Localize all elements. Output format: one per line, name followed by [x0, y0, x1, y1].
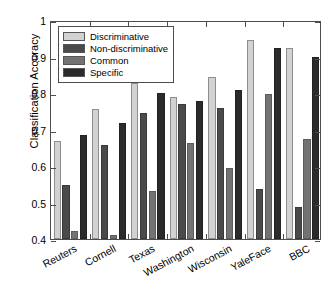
y-tick-mark-right	[315, 22, 320, 23]
bar	[149, 191, 156, 239]
legend-item: Non-discriminative	[63, 43, 168, 54]
bar	[54, 141, 61, 239]
legend-item: Common	[63, 55, 168, 66]
legend-label: Discriminative	[90, 32, 149, 42]
bar	[196, 101, 203, 239]
bar	[71, 231, 78, 239]
y-tick-mark-right	[315, 168, 320, 169]
bar	[62, 185, 69, 239]
bar	[312, 57, 319, 240]
bar	[208, 77, 215, 239]
bar	[170, 97, 177, 239]
bar	[157, 93, 164, 239]
bar-group	[247, 22, 281, 239]
legend-item: Discriminative	[63, 31, 168, 42]
bar	[110, 235, 117, 239]
y-tick-mark	[51, 132, 56, 133]
bar	[265, 94, 272, 239]
legend: DiscriminativeNon-discriminativeCommonSp…	[58, 26, 174, 83]
bar	[274, 48, 281, 239]
x-tick-mark-top	[245, 22, 246, 27]
y-tick-mark-right	[315, 132, 320, 133]
y-tick-mark-right	[315, 205, 320, 206]
legend-swatch	[63, 44, 85, 53]
y-tick-label: 0.9	[8, 52, 46, 64]
y-tick-mark	[51, 168, 56, 169]
bar	[140, 113, 147, 239]
y-tick-label: 1	[8, 15, 46, 27]
bar	[286, 48, 293, 239]
legend-swatch	[63, 68, 85, 77]
y-tick-mark-right	[315, 59, 320, 60]
y-tick-label: 0.5	[8, 198, 46, 210]
legend-swatch	[63, 32, 85, 41]
bar	[303, 139, 310, 239]
bar	[217, 108, 224, 239]
x-tick-mark	[206, 234, 207, 239]
bar	[295, 207, 302, 239]
bar	[92, 109, 99, 239]
bar	[187, 143, 194, 239]
bar	[247, 40, 254, 239]
y-tick-mark	[51, 59, 56, 60]
bar	[131, 83, 138, 239]
y-tick-mark	[51, 95, 56, 96]
y-tick-label: 0.7	[8, 125, 46, 137]
x-tick-mark-top	[206, 22, 207, 27]
y-tick-mark	[51, 205, 56, 206]
bar	[80, 135, 87, 239]
y-tick-mark	[51, 22, 56, 23]
bar	[256, 189, 263, 239]
x-tick-mark	[90, 234, 91, 239]
bar	[178, 104, 185, 239]
bar	[235, 90, 242, 239]
bar	[119, 123, 126, 239]
bar-chart-figure: Classification Accuracy 0.40.50.60.70.80…	[0, 0, 334, 291]
x-axis-tick-labels: ReutersCornellTexasWashingtonWisconsinYa…	[50, 242, 321, 291]
legend-label: Common	[90, 56, 129, 66]
legend-swatch	[63, 56, 85, 65]
legend-label: Specific	[90, 68, 123, 78]
x-tick-mark	[245, 234, 246, 239]
legend-item: Specific	[63, 67, 168, 78]
x-tick-mark	[128, 234, 129, 239]
bar	[226, 168, 233, 239]
x-tick-mark	[283, 234, 284, 239]
y-tick-mark-right	[315, 95, 320, 96]
legend-label: Non-discriminative	[90, 44, 168, 54]
y-tick-label: 0.8	[8, 88, 46, 100]
x-tick-mark	[167, 234, 168, 239]
bar-group	[170, 22, 204, 239]
bar	[101, 145, 108, 239]
bar-group	[286, 22, 320, 239]
y-tick-label: 0.4	[8, 234, 46, 246]
bar-group	[208, 22, 242, 239]
x-tick-mark-top	[283, 22, 284, 27]
y-tick-label: 0.6	[8, 161, 46, 173]
